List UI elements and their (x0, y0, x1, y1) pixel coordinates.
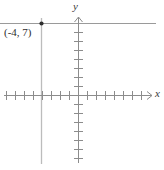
x-axis-label: x (155, 88, 160, 99)
y-axis (75, 17, 83, 163)
plotted-point (39, 21, 43, 25)
graph-figure: y x (-4, 7) (0, 0, 164, 170)
point-coordinate-label: (-4, 7) (4, 27, 32, 38)
y-axis-label: y (73, 1, 78, 12)
